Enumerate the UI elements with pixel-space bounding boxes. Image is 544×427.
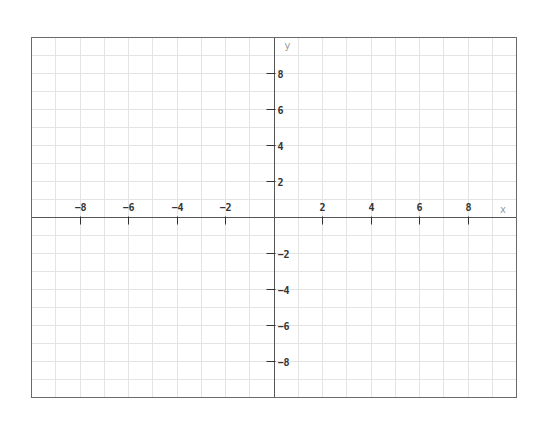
y-tick-label: 8 [278,69,284,80]
x-tick-label: 2 [319,202,325,213]
y-tick-label: 2 [278,177,284,188]
x-tick-label: −8 [74,202,86,213]
x-tick-label: 4 [368,202,374,213]
x-tick-label: −6 [122,202,134,213]
y-tick-label: −2 [278,249,290,260]
coordinate-plane: −8−6−4−22468 8642−2−4−6−8 x y [0,0,544,427]
x-tick-label: −2 [219,202,231,213]
y-tick-label: −8 [278,357,290,368]
y-axis-label: y [285,40,291,51]
x-tick-label: 6 [416,202,422,213]
x-tick-label: 8 [465,202,471,213]
x-axis-label: x [500,204,506,215]
y-tick-label: −6 [278,321,290,332]
x-tick-label: −4 [171,202,183,213]
y-tick-label: −4 [278,285,290,296]
y-tick-label: 4 [278,141,284,152]
y-tick-label: 6 [278,105,284,116]
x-tick-labels: −8−6−4−22468 [74,202,471,213]
